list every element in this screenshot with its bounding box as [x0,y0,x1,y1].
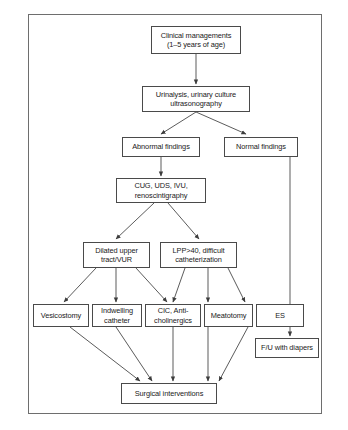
node-surgical-interventions: Surgical interventions [121,383,217,404]
node-indwelling-catheter: Indwelling catheter [92,304,142,327]
node-vesicostomy: Vesicostomy [33,304,89,327]
node-lpp-difficult-catheterization: LPP>40, difficult catheterization [160,242,237,268]
node-es: ES [256,304,304,327]
node-normal-findings: Normal findings [224,137,298,157]
node-cic-anticholinergics: CIC, Anti- cholinergics [145,304,201,327]
edge-cug-to-dilated [116,203,154,239]
node-urinalysis: Urinalysis, urinary culture ultrasonogra… [142,86,250,112]
edge-dilated-to-cic [136,268,167,302]
edge-lpp-to-cic [173,268,185,302]
edge-dilated-to-vesicostomy [64,268,96,302]
node-abnormal-findings: Abnormal findings [122,137,200,157]
edge-lpp-to-es [228,268,245,302]
node-fu-with-diapers: F/U with diapers [255,338,319,358]
flowchart-page: Clinical managements (1–5 years of age) … [0,0,348,430]
edge-layer [0,0,348,430]
node-meatotomy: Meatotomy [204,304,253,327]
edge-es-to-surgical [219,327,248,381]
edge-indwelling-to-surgical [116,327,152,381]
node-cug-uds-ivu: CUG, UDS, IVU, renoscintigraphy [116,178,206,203]
edge-cug-to-lpp [168,203,199,239]
edge-urinalysis-to-abnormal [161,112,196,134]
node-dilated-upper-tract: Dilated upper tract/VUR [83,242,150,268]
edge-vesicostomy-to-surgical [70,327,140,381]
node-clinical-managements: Clinical managements (1–5 years of age) [151,26,241,54]
edge-urinalysis-to-normal [196,112,246,134]
